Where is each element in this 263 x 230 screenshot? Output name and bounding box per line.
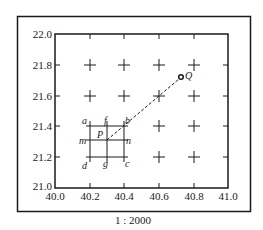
- cross-icon: [118, 90, 130, 102]
- x-tick-label: 40.4: [114, 190, 134, 202]
- y-tick-label: 22.0: [33, 28, 53, 40]
- grid-map-diagram: 22.0 21.8 21.6 21.4 21.2 21.0 40.0 40.2 …: [0, 0, 263, 230]
- y-tick-label: 21.8: [33, 59, 53, 71]
- interpolation-square: [86, 121, 128, 162]
- x-tick-label: 40.8: [184, 190, 204, 202]
- y-tick-label: 21.2: [33, 151, 52, 163]
- point-q-label: Q: [185, 70, 193, 81]
- cross-icon: [153, 90, 165, 102]
- cross-icon: [188, 151, 200, 163]
- cross-icon: [188, 90, 200, 102]
- label-p: P: [96, 129, 103, 140]
- cross-icon: [153, 151, 165, 163]
- y-axis-labels: 22.0 21.8 21.6 21.4 21.2 21.0: [33, 28, 53, 192]
- x-tick-label: 40.0: [45, 190, 65, 202]
- cross-icon: [84, 90, 96, 102]
- label-n: n: [126, 135, 131, 146]
- label-a: a: [82, 115, 87, 126]
- y-tick-label: 21.6: [33, 90, 53, 102]
- outer-frame: [18, 17, 251, 212]
- label-d: d: [82, 160, 88, 171]
- point-q-marker: [179, 75, 184, 80]
- label-m: m: [79, 135, 86, 146]
- x-tick-label: 40.6: [149, 190, 169, 202]
- x-tick-label: 40.2: [80, 190, 99, 202]
- cross-icon: [153, 59, 165, 71]
- x-tick-label: 41.0: [218, 190, 238, 202]
- cross-icon: [84, 59, 96, 71]
- label-g: g: [103, 158, 108, 169]
- label-c: c: [125, 158, 130, 169]
- dashed-line-p-q: [107, 79, 179, 140]
- x-axis-labels: 40.0 40.2 40.4 40.6 40.8 41.0: [45, 190, 238, 202]
- cross-icon: [118, 59, 130, 71]
- label-b: b: [125, 115, 130, 126]
- cross-icon: [188, 120, 200, 132]
- y-tick-label: 21.4: [33, 120, 53, 132]
- scale-label: 1 : 2000: [115, 214, 152, 226]
- cross-icon: [153, 120, 165, 132]
